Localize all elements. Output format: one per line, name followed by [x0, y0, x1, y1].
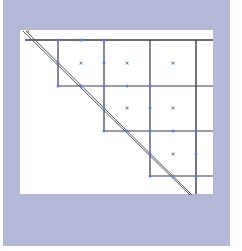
cell-mark: ×	[170, 104, 175, 111]
diagonal-line-b	[26, 31, 192, 195]
cell-mark: ×	[124, 104, 129, 111]
cell-mark: ×	[170, 59, 175, 66]
diagonal-line-a	[23, 31, 190, 195]
staircase-diagram: × × × × × × ×	[0, 0, 242, 251]
cell-mark: ×	[124, 59, 129, 66]
cell-mark: ×	[78, 59, 83, 66]
cell-mark: ×	[170, 150, 175, 157]
corner-label: ×	[26, 28, 30, 34]
